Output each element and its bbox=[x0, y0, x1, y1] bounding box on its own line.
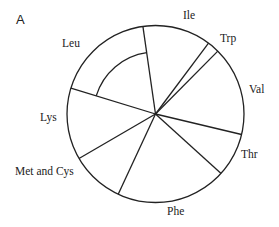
slice-boundary-line bbox=[71, 88, 156, 114]
panel-label: A bbox=[16, 12, 25, 27]
slice-boundary-line bbox=[156, 51, 218, 114]
pie-slices bbox=[67, 26, 244, 203]
slice-boundary-line bbox=[156, 114, 222, 173]
label-leu: Leu bbox=[62, 37, 80, 49]
slice-boundary-line bbox=[79, 114, 156, 159]
label-met-cys: Met and Cys bbox=[15, 165, 74, 177]
slice-boundary-line bbox=[118, 114, 155, 194]
slice-boundary-line bbox=[156, 43, 209, 114]
label-phe: Phe bbox=[167, 205, 184, 217]
label-trp: Trp bbox=[220, 32, 236, 44]
leu-inner-arc bbox=[96, 53, 147, 96]
slice-boundary-line bbox=[143, 26, 156, 114]
label-val: Val bbox=[249, 83, 264, 95]
label-lys: Lys bbox=[40, 111, 57, 123]
label-ile: Ile bbox=[183, 9, 195, 21]
slice-boundary-line bbox=[156, 114, 242, 135]
label-thr: Thr bbox=[241, 148, 258, 160]
